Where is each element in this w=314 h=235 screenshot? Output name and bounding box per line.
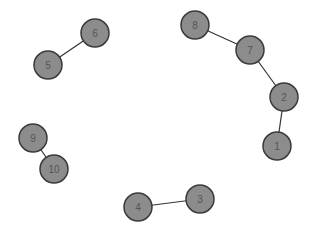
node-1[interactable]: 1 [263, 132, 291, 160]
node-label: 8 [192, 20, 198, 31]
node-label: 1 [274, 141, 280, 152]
graph-canvas: 12345678910 [0, 0, 314, 235]
node-3[interactable]: 3 [186, 185, 214, 213]
node-label: 3 [197, 194, 203, 205]
node-8[interactable]: 8 [181, 11, 209, 39]
node-label: 2 [281, 92, 287, 103]
node-label: 7 [247, 45, 253, 56]
node-label: 6 [92, 28, 98, 39]
node-4[interactable]: 4 [124, 193, 152, 221]
node-label: 9 [30, 133, 36, 144]
node-2[interactable]: 2 [270, 83, 298, 111]
node-7[interactable]: 7 [236, 36, 264, 64]
node-label: 10 [48, 164, 60, 175]
nodes-layer: 12345678910 [19, 11, 298, 221]
node-5[interactable]: 5 [34, 51, 62, 79]
node-6[interactable]: 6 [81, 19, 109, 47]
node-9[interactable]: 9 [19, 124, 47, 152]
network-graph: 12345678910 [0, 0, 314, 235]
node-label: 4 [135, 202, 141, 213]
node-10[interactable]: 10 [40, 155, 68, 183]
node-label: 5 [45, 60, 51, 71]
